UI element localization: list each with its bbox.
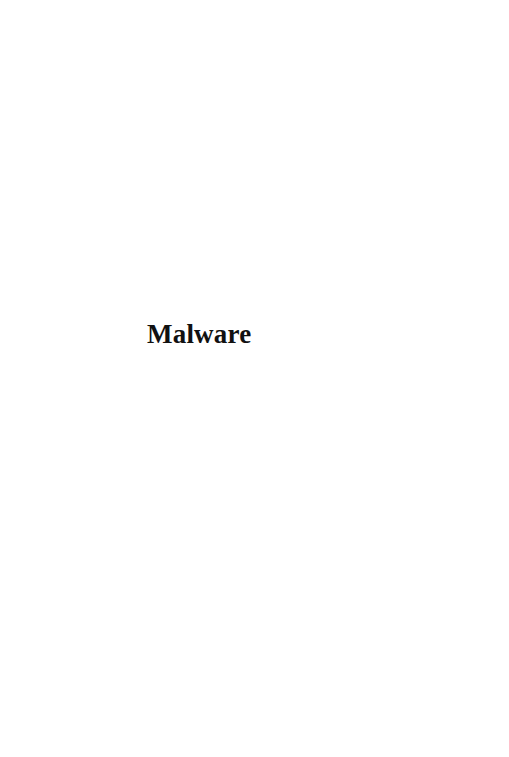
document-page: Malware xyxy=(0,0,509,757)
page-title: Malware xyxy=(147,318,251,350)
